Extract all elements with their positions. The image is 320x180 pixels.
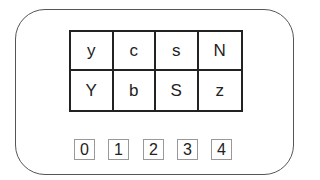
grid-cell: z [199,71,242,110]
grid-cell: s [156,32,199,71]
index-label-box: 1 [108,139,129,160]
index-label-box: 0 [74,139,95,160]
grid-cell: S [156,71,199,110]
grid-cell: c [114,32,157,71]
character-grid: y c s N Y b S z [69,30,243,112]
index-label-box: 4 [211,139,232,160]
grid-cell: Y [71,71,114,110]
index-label-row: 0 1 2 3 4 [74,139,234,161]
grid-cell: b [114,71,157,110]
index-label-box: 3 [177,139,198,160]
index-label-box: 2 [143,139,164,160]
grid-cell: N [199,32,242,71]
grid-cell: y [71,32,114,71]
